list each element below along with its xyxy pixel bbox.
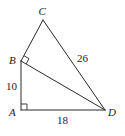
vertex-label-a: A (8, 106, 16, 118)
length-label-ab: 10 (6, 80, 18, 92)
segment-cd (43, 20, 105, 110)
vertex-label-b: B (9, 54, 16, 66)
length-label-ad: 18 (57, 114, 69, 126)
length-label-cd: 26 (77, 52, 89, 64)
right-angle-marker-a (21, 104, 27, 110)
vertex-label-c: C (39, 5, 47, 17)
geometry-diagram: C B A D 10 18 26 (0, 0, 125, 136)
vertex-label-d: D (107, 106, 116, 118)
segment-bd (21, 61, 105, 110)
segment-bc (21, 20, 43, 61)
